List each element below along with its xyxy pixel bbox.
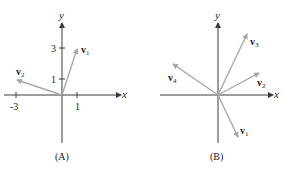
vector-label-b-v2: v2 [257,77,266,90]
vector-label-a-v2: v2 [16,66,25,79]
vector-label-b-v3: v3 [250,36,259,49]
diagram-canvas: x y -3 1 1 3 v1 v2 (A) x y v1 v2 v3 [0,0,285,171]
tick-label-x-1: 1 [75,101,80,112]
vector-label-a-v1: v1 [81,44,90,57]
vector-a-v1 [62,49,77,95]
panel-b: x y v1 v2 v3 v4 (B) [160,9,279,163]
axis-label-x-b: x [273,88,279,100]
tick-label-y-1: 1 [51,74,56,85]
tick-label-y-3: 3 [51,43,56,54]
caption-b: (B) [210,151,223,163]
tick-label-x-neg3: -3 [10,101,18,112]
axis-label-y-a: y [58,9,64,21]
vector-label-b-v4: v4 [168,72,177,85]
vector-b-v3 [218,34,247,95]
axis-label-y-b: y [214,9,220,21]
vector-b-v1 [218,95,238,137]
vector-b-v4 [173,64,218,95]
vector-label-b-v1: v1 [240,125,249,138]
axis-label-x-a: x [121,88,127,100]
panel-a: x y -3 1 1 3 v1 v2 (A) [4,9,127,163]
vector-b-v2 [218,73,259,95]
caption-a: (A) [55,151,69,163]
